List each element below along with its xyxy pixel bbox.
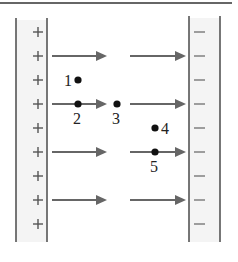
points: 1 2 3 4 5 [64,72,169,175]
point-dot [151,148,158,155]
point-dot [151,124,158,131]
point-label: 3 [112,110,120,127]
parallel-plate-field-diagram: 1 2 3 4 5 [0,0,238,262]
left-positive-plate [16,18,47,242]
point-label: 4 [161,120,169,137]
point-4: 4 [151,120,169,137]
arrow-right-icon [130,195,186,205]
point-dot [74,76,81,83]
point-label: 5 [150,158,158,175]
point-dot [113,100,120,107]
arrow-right-icon [130,51,186,61]
arrow-right-icon [52,51,107,61]
right-negative-plate [189,16,220,242]
point-1: 1 [64,72,82,89]
point-3: 3 [112,100,121,127]
point-dot [74,100,81,107]
point-label: 2 [73,110,81,127]
arrow-right-icon [52,195,107,205]
arrow-right-icon [130,99,186,109]
arrow-right-icon [52,147,107,157]
point-label: 1 [64,72,72,89]
